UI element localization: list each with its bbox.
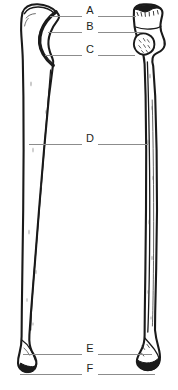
- right-bone-radius: [134, 4, 165, 370]
- label-E: E: [83, 343, 97, 354]
- label-F: F: [83, 363, 97, 374]
- label-A: A: [83, 5, 97, 16]
- right-radial-tuberosity: [134, 34, 154, 55]
- anatomy-figure: A B C D E F: [0, 0, 178, 390]
- left-bone-ulna: [18, 4, 59, 372]
- label-D: D: [83, 133, 97, 144]
- bone-illustration: [0, 0, 178, 390]
- label-C: C: [83, 44, 97, 55]
- label-B: B: [83, 21, 97, 32]
- left-bone-outline: [18, 4, 59, 371]
